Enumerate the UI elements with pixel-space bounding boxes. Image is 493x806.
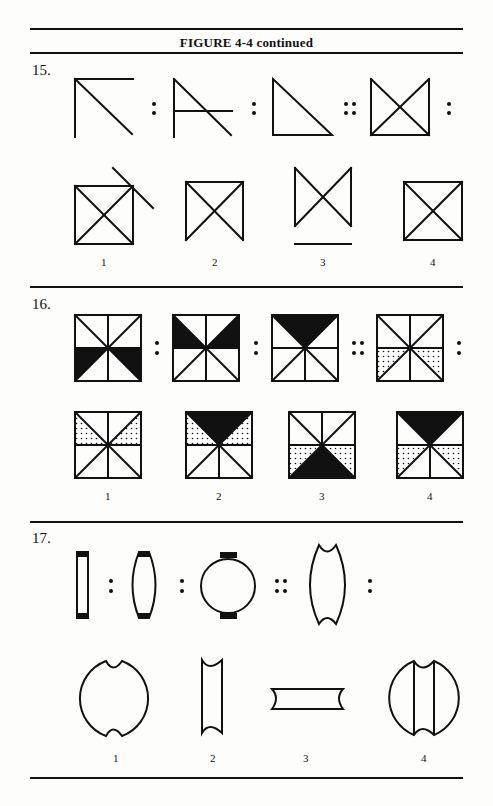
q16-stem-figure-3: [272, 315, 338, 381]
q17-option-1-figure[interactable]: [80, 661, 148, 736]
q17-option-4-figure[interactable]: [389, 661, 459, 735]
q15-option-1-figure[interactable]: [75, 168, 153, 244]
q17-stem-figure-2: [133, 551, 156, 619]
q16-option-4-label: 4: [427, 490, 433, 502]
q16-option-2-figure[interactable]: [186, 412, 252, 478]
q15-option-3-figure[interactable]: [295, 168, 351, 244]
q17-stem-figure-3: [201, 552, 255, 619]
q15-stem-figure-2: [174, 79, 232, 137]
q17-option-3-figure[interactable]: [272, 689, 343, 709]
q16-option-4-figure[interactable]: [397, 412, 463, 478]
q15-option-3-label: 3: [320, 256, 326, 268]
q17-option-2-figure[interactable]: [202, 660, 222, 733]
q15-option-2-figure[interactable]: [186, 182, 243, 240]
q15-option-4-figure[interactable]: [404, 182, 462, 240]
q16-option-3-figure[interactable]: [289, 412, 355, 478]
q15-option-1-label: 1: [101, 256, 107, 268]
q16-stem-figure-2: [173, 315, 239, 381]
q16-stem-figure-1: [75, 315, 141, 381]
q15-option-2-label: 2: [212, 256, 218, 268]
q17-separators: [109, 579, 372, 593]
q17-stem-figure-4: [310, 545, 345, 624]
q15-stem-figure-4: [371, 79, 429, 135]
q17-option-4-label: 4: [421, 752, 427, 764]
q17-stem-figure-1: [76, 551, 89, 619]
q16-option-2-label: 2: [216, 490, 222, 502]
q15-option-4-label: 4: [430, 256, 436, 268]
q17-option-2-label: 2: [210, 752, 216, 764]
q15-stem-figure-3: [273, 79, 332, 135]
q17-option-1-label: 1: [113, 752, 119, 764]
q16-option-1-figure[interactable]: [75, 412, 141, 478]
q16-option-1-label: 1: [105, 490, 111, 502]
q15-stem-figure-1: [75, 79, 133, 137]
q16-option-3-label: 3: [319, 490, 325, 502]
q17-option-3-label: 3: [303, 752, 309, 764]
figure-canvas: [0, 0, 493, 806]
q16-stem-figure-4: [377, 315, 443, 381]
